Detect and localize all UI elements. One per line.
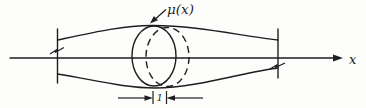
x-axis-label: x [349,52,357,67]
diagram-canvas: x μ(x) 1 [0,0,366,108]
dim-left-arrowhead-icon [145,95,154,100]
thickness-label: 1 [157,92,163,103]
mass-density-diagram: x μ(x) 1 [0,0,366,108]
bar-bottom-outline [58,68,279,88]
mu-label: μ(x) [167,1,194,17]
slice-back-ellipse [146,28,189,87]
x-axis-arrowhead-icon [333,55,343,62]
dim-right-arrowhead-icon [167,95,176,100]
